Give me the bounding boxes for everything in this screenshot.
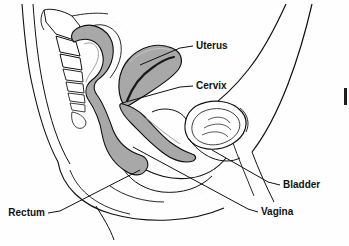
- leader-line-bladder: [212, 150, 280, 185]
- sacral-promontory-line: [41, 10, 44, 30]
- anterior-vaginal-wall-line: [152, 109, 189, 132]
- stipple-buttock: [98, 206, 170, 225]
- sacral-vertebra-4: [63, 69, 83, 82]
- stipple-perineum: [150, 180, 216, 199]
- coccyx-segment-1: [66, 82, 84, 93]
- anatomy-figure: Uterus Cervix Bladder Vagina Rectum: [0, 0, 349, 246]
- edge-artifact-mark: [344, 88, 347, 105]
- label-cervix: Cervix: [196, 80, 227, 91]
- sagittal-section-illustration: Uterus Cervix Bladder Vagina Rectum: [0, 0, 349, 246]
- label-vagina: Vagina: [261, 206, 294, 217]
- label-bladder: Bladder: [283, 179, 320, 190]
- thigh-contour-line: [252, 152, 274, 202]
- abdominal-wall-line: [204, 4, 286, 112]
- coccyx-segment-2: [68, 93, 85, 103]
- label-rectum: Rectum: [8, 207, 45, 218]
- coccyx-tip: [72, 112, 86, 128]
- outer-body-contour-line: [252, 4, 312, 152]
- coccyx-segment-3: [70, 103, 85, 112]
- perineum-line: [96, 206, 114, 240]
- label-uterus: Uterus: [196, 40, 228, 51]
- leader-line-rectum: [48, 170, 140, 213]
- sacral-vertebra-3: [60, 54, 82, 70]
